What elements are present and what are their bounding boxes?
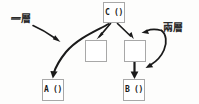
annotation-two-layer: 兩層 (163, 23, 183, 33)
node-box-inner-left (85, 40, 107, 62)
node-box-inner-right (124, 40, 146, 62)
edge-inner-right-to-b (131, 62, 139, 79)
diagram-canvas: C () A () B () 一層 兩層 (0, 0, 199, 104)
node-label-c: C () (105, 9, 123, 17)
node-box-a: A () (42, 79, 64, 101)
node-label-a: A () (44, 86, 62, 94)
node-box-c: C () (103, 2, 125, 23)
node-box-b: B () (123, 79, 145, 101)
edge-c-to-inner-right (118, 24, 134, 40)
annotation-one-layer: 一層 (11, 14, 31, 24)
node-label-b: B () (125, 86, 143, 94)
pointer-one-layer (33, 26, 61, 43)
